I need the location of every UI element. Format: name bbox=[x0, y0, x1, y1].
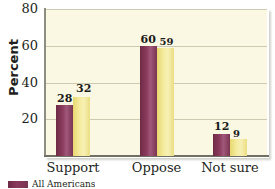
y-tick-label-20: 20 bbox=[8, 111, 38, 126]
category-label-support: Support bbox=[28, 160, 118, 175]
bar-not-sure-series1 bbox=[213, 134, 230, 156]
legend: All Americans bbox=[8, 179, 95, 189]
legend-label-all-americans: All Americans bbox=[32, 179, 95, 189]
category-label-not-sure: Not sure bbox=[185, 160, 275, 175]
data-label-support-series2: 32 bbox=[76, 82, 91, 95]
data-label-oppose-series1: 60 bbox=[141, 33, 156, 46]
y-tick-label-80: 80 bbox=[8, 1, 38, 16]
gridline-80 bbox=[45, 9, 267, 10]
data-label-support-series1: 28 bbox=[57, 92, 72, 105]
bar-support-series2 bbox=[73, 97, 90, 156]
y-axis-title: Percent bbox=[6, 33, 21, 103]
data-label-not-sure-series2: 9 bbox=[233, 128, 240, 139]
bar-oppose-series2 bbox=[157, 48, 174, 156]
bar-support-series1 bbox=[56, 105, 73, 156]
legend-swatch-all-americans bbox=[8, 181, 28, 188]
bar-not-sure-series2 bbox=[230, 139, 247, 156]
y-axis-line bbox=[44, 8, 46, 157]
data-label-not-sure-series1: 12 bbox=[214, 120, 229, 133]
bar-chart: Percent 80604020 28326059129 SupportOppo… bbox=[0, 0, 275, 189]
data-label-oppose-series2: 59 bbox=[160, 36, 174, 47]
bar-oppose-series1 bbox=[140, 46, 157, 156]
